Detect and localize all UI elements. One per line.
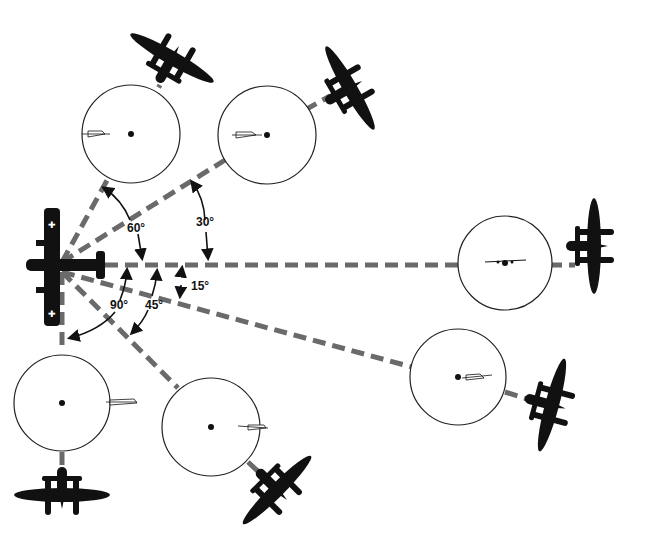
- fighter-side-icon: [106, 399, 137, 405]
- arc-30-lower: [206, 232, 208, 258]
- angle-label-90: 90°: [110, 298, 128, 312]
- angle-label-30: 30°: [196, 215, 214, 229]
- sight-ring-30: [218, 86, 316, 184]
- arc-60-upper: [104, 188, 130, 220]
- sight-ring-45: [162, 378, 268, 476]
- svg-text:✚: ✚: [48, 220, 56, 230]
- svg-text:✚: ✚: [48, 309, 56, 319]
- center-dot: [208, 424, 214, 430]
- sight-ring-60: [82, 85, 180, 183]
- arc-45-lower: [132, 310, 148, 333]
- sight-ring-90: [14, 355, 137, 451]
- sight-ring-0: [458, 216, 552, 310]
- bomber-icon: ✚ ✚: [26, 208, 105, 326]
- center-dot: [128, 131, 134, 137]
- arc-60-lower: [138, 234, 142, 258]
- arc-15-lower: [180, 285, 181, 296]
- p38-icon-90: [14, 467, 110, 515]
- center-dot: [455, 374, 461, 380]
- center-dot: [264, 132, 270, 138]
- arc-15-upper: [181, 268, 182, 275]
- p38-icon-15: [513, 351, 584, 456]
- line-15: [62, 272, 412, 367]
- center-dot: [59, 400, 65, 406]
- arc-90-upper: [120, 270, 127, 300]
- arc-45-upper: [152, 271, 157, 296]
- angle-label-15: 15°: [191, 279, 209, 293]
- deflection-diagram: ✚ ✚ 60° 30° 15° 45° 90°: [0, 0, 647, 541]
- angle-label-45: 45°: [145, 298, 163, 312]
- angle-label-60: 60°: [127, 221, 145, 235]
- sight-ring-15: [410, 329, 506, 425]
- p38-icon-0: [566, 198, 614, 294]
